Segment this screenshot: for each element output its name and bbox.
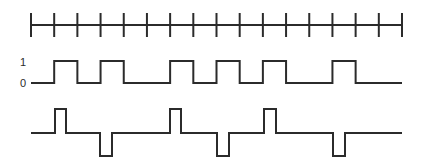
encoded-signal-waveform bbox=[31, 109, 402, 156]
level-label-high: 1 bbox=[20, 57, 26, 68]
binary-signal-waveform bbox=[31, 61, 402, 83]
signal-diagram bbox=[0, 0, 434, 166]
timeline-axis bbox=[31, 13, 402, 37]
level-label-low: 0 bbox=[20, 78, 26, 89]
